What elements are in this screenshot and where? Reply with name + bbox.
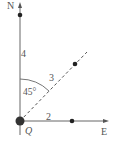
east-label: E: [101, 126, 107, 137]
northeast-point: [73, 62, 78, 67]
north-point: [18, 13, 23, 18]
origin-label: Q: [25, 125, 33, 136]
east-arrowhead-icon: [103, 119, 109, 123]
northeast-length-label: 3: [49, 72, 54, 83]
east-point: [70, 119, 75, 124]
angle-label: 45°: [23, 87, 37, 97]
north-arrowhead-icon: [18, 2, 22, 8]
north-length-label: 4: [21, 48, 26, 59]
origin-point: [16, 117, 25, 126]
east-length-label: 2: [46, 111, 51, 122]
north-label: N: [7, 0, 14, 11]
direction-diagram: N E Q 4 3 2 45°: [0, 0, 118, 147]
